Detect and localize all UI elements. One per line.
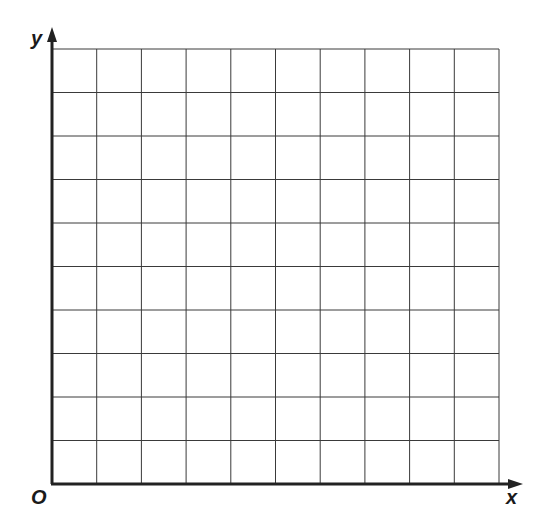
coordinate-grid [0,0,547,529]
y-axis-arrow-icon [47,27,57,42]
origin-label: O [31,486,47,509]
x-axis-label: x [506,486,517,509]
y-axis-label: y [31,27,42,50]
